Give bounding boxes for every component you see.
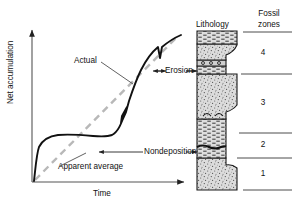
lithology-unit-shale-4 bbox=[197, 66, 226, 74]
lithology-header: Lithology bbox=[196, 20, 229, 29]
apparent-average-label: Apparent average bbox=[58, 162, 123, 171]
fossil-zone-label-4: 4 bbox=[252, 48, 274, 57]
lithology-unit-shale-top bbox=[197, 31, 237, 44]
fossil-zone-label-1: 1 bbox=[252, 169, 274, 178]
lithology-unit-sandstone-5 bbox=[197, 44, 237, 60]
fossil-zones-header-line2: zones bbox=[249, 20, 289, 29]
fossil-zone-label-2: 2 bbox=[252, 140, 274, 149]
y-axis-label: Net accumulation bbox=[6, 41, 15, 104]
apparent-average-line bbox=[35, 38, 176, 180]
fossil-zones-header-line1: Fossil bbox=[249, 9, 289, 18]
lithology-column bbox=[197, 31, 237, 190]
stratigraphic-figure: Net accumulation Time Actual Erosion Non… bbox=[0, 0, 297, 210]
lithology-unit-sandstone-3 bbox=[197, 74, 237, 119]
actual-curve-label: Actual bbox=[74, 56, 97, 65]
lithology-unit-shale-2 bbox=[197, 119, 226, 158]
lithology-unit-sandstone-1 bbox=[197, 158, 237, 190]
x-axis-label: Time bbox=[93, 189, 111, 198]
erosion-label: Erosion bbox=[165, 66, 193, 75]
fossil-zone-label-3: 3 bbox=[252, 98, 274, 107]
actual-leader-line bbox=[101, 62, 133, 84]
nondeposition-label: Nondeposition bbox=[144, 147, 196, 156]
